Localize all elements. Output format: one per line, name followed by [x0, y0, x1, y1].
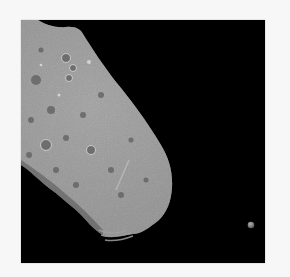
asteroid-scene	[21, 20, 265, 263]
asteroid	[21, 20, 265, 263]
moon	[248, 222, 255, 229]
space-image-frame	[21, 20, 265, 263]
